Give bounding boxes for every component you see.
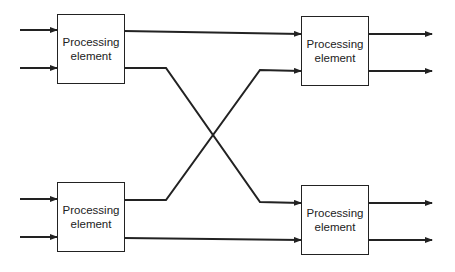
label: Processing <box>307 38 364 50</box>
label: Processing <box>63 204 120 216</box>
straight-connection-bottom <box>124 238 301 240</box>
processing-element-4: Processingelement <box>301 185 369 255</box>
processing-element-2: Processingelement <box>301 16 369 86</box>
label: Processing <box>63 36 120 48</box>
label: element <box>71 218 112 230</box>
processing-element-1: Processingelement <box>57 14 125 84</box>
label: Processing <box>307 207 364 219</box>
processing-element-3: Processingelement <box>57 182 125 252</box>
crossing-connection-up <box>124 70 301 200</box>
label: element <box>315 221 356 233</box>
label: element <box>71 50 112 62</box>
label: element <box>315 52 356 64</box>
straight-connection-top <box>124 31 301 34</box>
